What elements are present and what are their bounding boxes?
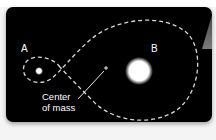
star-a-label: A [21,44,28,54]
diagram-stage: A B Center of mass [0,0,216,140]
orbit-diagram [0,0,216,140]
center-of-mass-label: Center of mass [42,91,75,113]
star-a [35,67,43,75]
star-b-label: B [151,44,158,54]
star-b [125,57,153,85]
center-of-mass-label-line1: Center [42,91,75,102]
center-of-mass-label-line2: of mass [42,102,75,113]
center-of-mass-leader-line [78,71,104,99]
center-of-mass-marker [104,66,108,70]
